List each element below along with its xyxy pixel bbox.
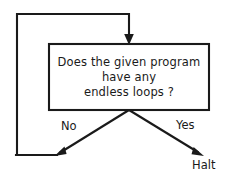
decision-line-2: have any bbox=[102, 71, 156, 83]
terminal-label-halt: Halt bbox=[192, 160, 215, 172]
decision-text-block: Does the given program have any endless … bbox=[51, 46, 207, 108]
arrowhead-yes-icon bbox=[192, 147, 205, 156]
branch-label-yes: Yes bbox=[176, 120, 195, 132]
branch-label-no: No bbox=[61, 121, 77, 133]
decision-line-3: endless loops ? bbox=[84, 86, 174, 98]
flowchart-diagram: Does the given program have any endless … bbox=[0, 0, 231, 181]
decision-line-1: Does the given program bbox=[58, 56, 201, 68]
